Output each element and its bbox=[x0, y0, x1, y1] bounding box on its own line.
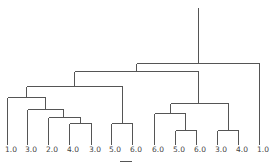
dendrogram bbox=[0, 0, 273, 166]
title-remnant bbox=[120, 161, 132, 162]
leaf-label: 1.0 bbox=[5, 145, 17, 154]
leaf-label: 3.0 bbox=[215, 145, 227, 154]
leaf-label: 6.0 bbox=[130, 145, 142, 154]
leaf-label: 5.0 bbox=[109, 145, 121, 154]
leaf-label: 6.0 bbox=[194, 145, 206, 154]
leaf-label: 1.0 bbox=[257, 145, 269, 154]
leaf-label: 4.0 bbox=[67, 145, 79, 154]
dendrogram-branches bbox=[8, 8, 260, 145]
leaf-label: 6.0 bbox=[152, 145, 164, 154]
leaf-label: 3.0 bbox=[25, 145, 37, 154]
leaf-label: 4.0 bbox=[236, 145, 248, 154]
leaf-label: 3.0 bbox=[89, 145, 101, 154]
leaf-label: 5.0 bbox=[173, 145, 185, 154]
leaf-label: 2.0 bbox=[46, 145, 58, 154]
